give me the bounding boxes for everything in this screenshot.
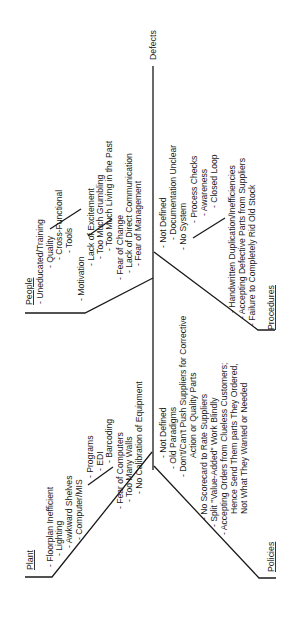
procedures-item: - Closed Loop (209, 154, 219, 208)
plant-item: - Awkward Shelves (64, 476, 74, 548)
policies-item: - No Scorecard to Rate Suppliers (199, 394, 209, 520)
procedures-item: - Accepting Defective Parts from Supplie… (237, 158, 247, 319)
plant-item: - Computer/MIS (74, 479, 84, 540)
people-item: - Uneducated/Training (35, 219, 45, 304)
people-item: - Tools (64, 228, 74, 253)
procedures-item: - Documentation Unclear (168, 145, 178, 240)
policies-title: Policies (266, 541, 276, 572)
policies-item-continuation: Hence Send Them parts They Ordered, (229, 363, 239, 514)
procedures-item: - Awareness (199, 169, 209, 216)
effect-label: Defects (148, 30, 158, 60)
policies-item: - Old Paradigms (168, 407, 178, 469)
policies-item: - Accepting Orders from Clueless Custome… (219, 363, 229, 535)
plant-item: - No Calibration of Equipment (134, 381, 144, 494)
procedures-item: - Process Checks (189, 156, 199, 223)
category-procedures: - Not Defined - Documentation Unclear - … (154, 145, 276, 330)
plant-item: - Barcoding (104, 419, 114, 463)
people-item: - Cross-Functional (54, 190, 64, 260)
policies-item: - Split "Value-Added" Work Blindly (209, 397, 219, 527)
plant-title: Plant (25, 549, 35, 570)
procedures-item: - Not Defined (158, 197, 168, 248)
category-plant: Plant - Floorplan Inefficient - Lighting… (25, 381, 152, 577)
policies-item-continuation: Not What They Wanted or Needed (239, 382, 249, 514)
procedures-item: - Failure to Completely Rid Old Stock (247, 184, 257, 326)
people-item: - Too Much Living in the Past (104, 140, 114, 251)
policies-item: - Don't/Can't Push Suppliers for Correct… (178, 315, 188, 477)
people-item: - Motivation (76, 256, 86, 301)
procedures-item: - No System (178, 203, 188, 250)
people-title: People (24, 278, 34, 305)
plant-item: - Programs (85, 436, 95, 479)
plant-item: - Too Many Walls (124, 437, 134, 502)
policies-item: - Not Defined (158, 407, 168, 458)
procedures-item: - Handwritten Duplication/Inefficiencies (227, 165, 237, 313)
people-item: - Fear of Management (133, 180, 143, 266)
procedures-title: Procedures (266, 284, 276, 330)
fishbone-diagram: Defects People - Uneducated/Training - Q… (0, 0, 292, 618)
category-policies: - Not Defined - Old Paradigms - Don't/Ca… (154, 315, 276, 578)
policies-item-continuation: Action or Quality Parts (188, 373, 198, 459)
plant-item: - Lighting (54, 520, 64, 556)
category-people: People - Uneducated/Training - Quality -… (24, 140, 153, 313)
